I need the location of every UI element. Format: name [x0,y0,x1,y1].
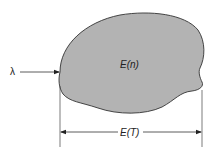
diagram-canvas: λ E(n) E(T) [0,0,215,154]
dimension-label: E(T) [120,127,139,138]
lambda-label: λ [10,66,15,77]
region-label: E(n) [120,59,139,70]
